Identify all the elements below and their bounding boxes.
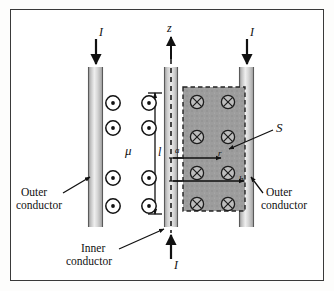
dot-in-circle-icon	[106, 199, 120, 213]
diagram-canvas	[11, 10, 323, 280]
outer-left-leader-line	[63, 177, 90, 193]
outer-conductor-right-label-line1: Outer	[266, 186, 292, 198]
cross-in-circle-icon	[190, 95, 203, 108]
dot-in-circle-icon	[142, 199, 156, 213]
outer-radius-label-b: b	[239, 175, 244, 185]
inner-conductor-label-line1: Inner	[81, 242, 105, 254]
inner-conductor-label-line2: conductor	[66, 255, 112, 267]
permeability-label: μ	[125, 144, 132, 158]
outer-conductor-left-label-line1: Outer	[21, 186, 47, 198]
axis-label-z: z	[167, 22, 172, 35]
cross-in-circle-icon	[221, 197, 234, 210]
dot-in-circle-icon	[106, 121, 120, 135]
outer-conductor-right-label-line2: conductor	[261, 199, 307, 211]
outer-conductor-left	[88, 67, 103, 227]
outer-conductor-left-label-line2: conductor	[16, 199, 62, 211]
dot-in-circle-icon	[106, 96, 120, 110]
inner-conductor-leader-line	[119, 229, 164, 249]
current-label-top-right: I	[250, 26, 254, 39]
dot-in-circle-icon	[142, 171, 156, 185]
surface-label-S: S	[276, 121, 283, 135]
figure-root: I I I z μ l a b r S Outer conductor Oute…	[0, 0, 334, 291]
cross-in-circle-icon	[190, 197, 203, 210]
dot-in-circle-icon	[142, 121, 156, 135]
current-label-bottom: I	[174, 259, 178, 272]
cross-in-circle-icon	[221, 95, 234, 108]
radius-variable-label-r: r	[218, 149, 222, 159]
cross-in-circle-icon	[190, 166, 203, 179]
length-label: l	[158, 146, 161, 159]
figure-frame: I I I z μ l a b r S Outer conductor Oute…	[10, 9, 324, 281]
dot-in-circle-icon	[142, 96, 156, 110]
cross-in-circle-icon	[221, 166, 234, 179]
inner-radius-label-a: a	[175, 146, 180, 156]
dot-in-circle-icon	[106, 171, 120, 185]
current-label-top-left: I	[99, 26, 103, 39]
cross-in-circle-icon	[221, 130, 234, 143]
cross-in-circle-icon	[190, 130, 203, 143]
